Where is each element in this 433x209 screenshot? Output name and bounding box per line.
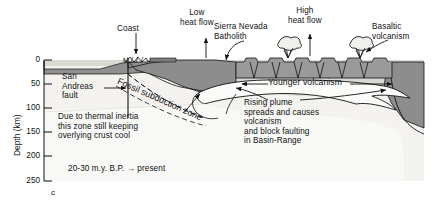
axis-title-depth: Depth (km) — [12, 115, 22, 156]
label-low-heat-flow: Low heat flow — [180, 8, 214, 27]
label-san-andreas-fault: San Andreas fault — [62, 72, 93, 101]
label-thermal-inertia-note: Due to thermal inertia this zone still k… — [58, 112, 138, 141]
label-younger-volcanism: Younger volcanism — [268, 78, 342, 88]
axis-tick-0: 0 — [18, 56, 40, 64]
panel-letter: c — [51, 188, 55, 197]
label-high-heat-flow: High heat flow — [288, 6, 322, 25]
label-sierra-nevada-batholith: Sierra Nevada Batholith — [214, 22, 268, 41]
label-coast: Coast — [117, 24, 139, 34]
axis-tick-50: 50 — [18, 80, 40, 88]
label-rising-plume-note: Rising plume spreads and causes volcanis… — [244, 98, 319, 146]
label-basaltic-volcanism: Basaltic volcanism — [372, 22, 409, 41]
axis-tick-250: 250 — [18, 177, 40, 185]
label-time-caption: 20-30 m.y. B.P. → present — [68, 164, 165, 174]
axis-tick-100: 100 — [18, 104, 40, 112]
